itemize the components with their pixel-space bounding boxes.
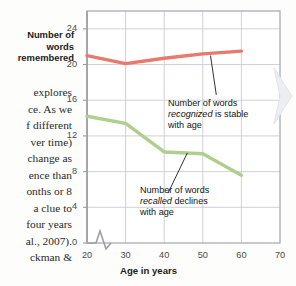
y-axis-tick-label: 8 — [53, 166, 77, 176]
annotation-recognized-emphasis: recognized — [168, 109, 213, 119]
annotation-recalled-line2: recalled declines — [140, 196, 209, 207]
y-axis-tick-label: 0 — [53, 237, 77, 247]
x-axis-tick-label: 50 — [191, 250, 215, 260]
annotation-recalled-line3: with age — [140, 207, 209, 218]
annotation-recognized-line2-tail: is stable — [213, 109, 249, 119]
x-axis-tick-label: 70 — [268, 250, 292, 260]
annotation-recalled: Number of words recalled declines with a… — [140, 185, 209, 219]
page-edge-chevron-icon — [272, 66, 296, 126]
y-axis-tick-label: 20 — [53, 59, 77, 69]
y-axis-tick-label: 16 — [53, 94, 77, 104]
y-axis-tick-label: 12 — [53, 130, 77, 140]
annotation-recalled-emphasis: recalled — [140, 196, 172, 206]
x-axis-tick-label: 60 — [229, 250, 253, 260]
x-axis-tick-label: 40 — [152, 250, 176, 260]
annotation-recognized-line1: Number of words — [168, 98, 248, 109]
annotation-recalled-line2-tail: declines — [172, 196, 208, 206]
annotation-recognized-line3: with age — [168, 120, 248, 131]
annotation-recalled-line1: Number of words — [140, 185, 209, 196]
annotation-recognized-line2: recognized is stable — [168, 109, 248, 120]
x-axis-tick-label: 20 — [75, 250, 99, 260]
annotation-recognized: Number of words recognized is stable wit… — [168, 98, 248, 132]
textbook-figure-page: explores ce. As we f different ver time)… — [0, 0, 296, 286]
y-axis-tick-label: 24 — [53, 23, 77, 33]
line-chart — [0, 0, 296, 286]
y-axis-tick-label: 4 — [53, 201, 77, 211]
x-axis-tick-label: 30 — [114, 250, 138, 260]
